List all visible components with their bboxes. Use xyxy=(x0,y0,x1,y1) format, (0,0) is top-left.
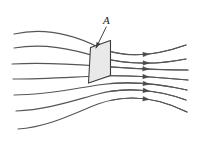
area-label-text: A xyxy=(102,14,110,26)
arrowhead-icon-2 xyxy=(143,61,149,66)
physics-figure-canvas: A xyxy=(0,0,197,149)
arrowhead-icon-3 xyxy=(143,66,149,71)
arrowhead-icon-1 xyxy=(143,52,149,57)
area-A-plane xyxy=(89,41,111,84)
field-line-diagram: A xyxy=(0,0,197,149)
arrowhead-icon-5 xyxy=(143,81,149,86)
field-arrowheads-group xyxy=(143,52,150,101)
arrowhead-icon-4 xyxy=(143,74,149,79)
field-line-7 xyxy=(18,98,187,129)
arrowhead-icon-6 xyxy=(143,88,149,93)
area-A-face xyxy=(89,41,111,84)
